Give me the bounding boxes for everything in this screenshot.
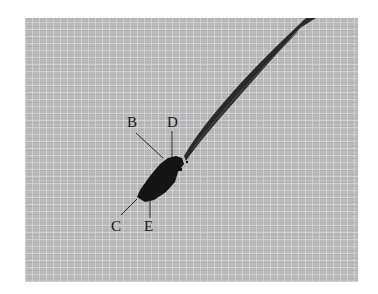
label-d: D xyxy=(167,115,178,130)
specimen xyxy=(137,156,188,202)
leader-line-c xyxy=(121,199,137,215)
label-e: E xyxy=(144,219,153,234)
rod xyxy=(184,18,316,161)
label-b: B xyxy=(127,115,137,130)
leader-line-b xyxy=(136,133,163,158)
photo-overlay xyxy=(0,0,378,294)
label-c: C xyxy=(111,219,121,234)
